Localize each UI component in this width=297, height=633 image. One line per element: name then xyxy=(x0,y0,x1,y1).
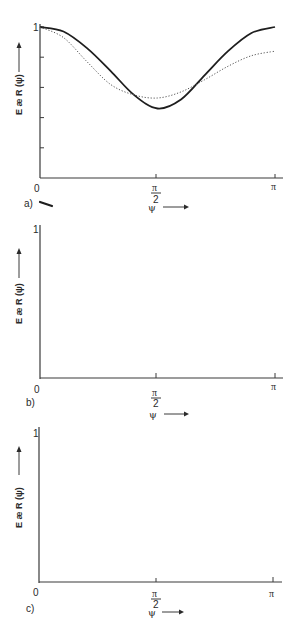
half-pi-numerator: π xyxy=(152,387,157,398)
x-axis-label-a: ψ xyxy=(148,202,156,213)
panel-c: 1 0 π 2 π c) ψ E æ R (ψ) xyxy=(14,427,282,618)
x-axis-arrow-icon xyxy=(179,610,184,615)
y-tick-label-one: 1 xyxy=(33,428,39,439)
x-axis-arrow-icon xyxy=(184,412,189,417)
x-axis-label-b: ψ xyxy=(149,409,157,420)
svg-text:E æ R (ψ): E æ R (ψ) xyxy=(14,283,24,324)
half-pi-numerator: π xyxy=(152,588,157,599)
y-axis-label-b: E æ R (ψ) xyxy=(14,283,24,324)
panel-b: 1 0 π 2 π b) ψ E æ R (ψ) xyxy=(14,224,283,420)
y-axis-arrow-icon xyxy=(17,446,22,452)
svg-text:E æ R (ψ): E æ R (ψ) xyxy=(14,487,24,528)
svg-text:E æ R (ψ): E æ R (ψ) xyxy=(14,74,24,115)
y-axis-label-a: E æ R (ψ) xyxy=(14,74,24,115)
panel-label-c: c) xyxy=(26,603,34,614)
panel-label-b: b) xyxy=(26,397,35,408)
panel-a: 1 0 π 2 π a) ψ E æ R (ψ) xyxy=(14,22,283,213)
y-tick-label-one: 1 xyxy=(33,224,39,235)
origin-label: 0 xyxy=(34,183,40,194)
solid-curve xyxy=(40,27,275,109)
pi-label: π xyxy=(271,181,276,192)
y-axis-arrow-icon xyxy=(17,42,22,48)
origin-label: 0 xyxy=(34,384,40,395)
panel-label-a: a) xyxy=(24,198,33,209)
origin-label: 0 xyxy=(33,587,39,598)
y-axis-label-c: E æ R (ψ) xyxy=(14,487,24,528)
x-axis-arrow-icon xyxy=(184,205,189,210)
pi-label: π xyxy=(269,588,274,599)
y-tick-label-one: 1 xyxy=(33,22,39,33)
figure: 1 0 π 2 π a) ψ E æ R (ψ) 1 0 π 2 π b) ψ xyxy=(0,0,297,633)
pi-label: π xyxy=(271,381,276,392)
half-pi-numerator: π xyxy=(152,182,157,193)
y-axis-arrow-icon xyxy=(17,248,22,254)
half-pi-denominator: 2 xyxy=(153,398,159,409)
stray-mark xyxy=(40,202,52,206)
x-axis-label-c: ψ xyxy=(148,607,156,618)
dotted-curve xyxy=(40,27,275,98)
